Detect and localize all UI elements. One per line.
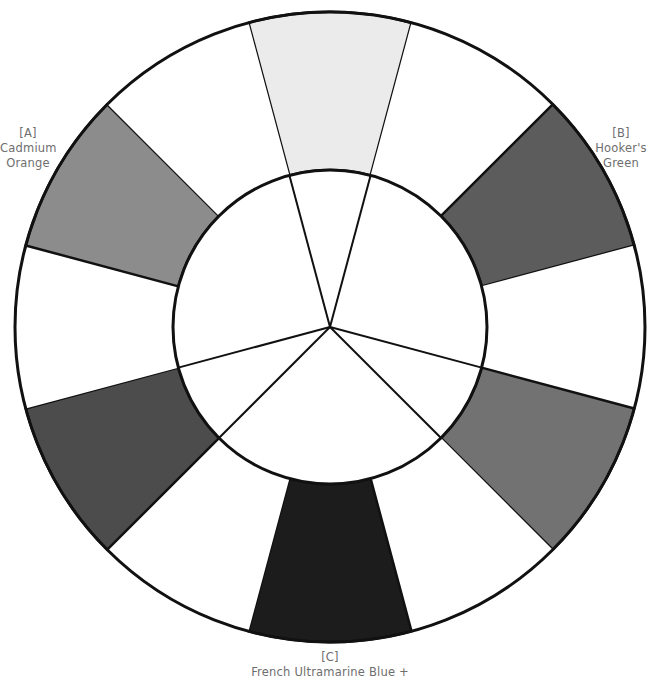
label-b-line1: Hooker's [592, 141, 650, 156]
label-a-tag: [A] [0, 126, 56, 141]
label-c-tag: [C] [200, 650, 460, 665]
label-hookers-green: [B] Hooker's Green [592, 126, 650, 171]
label-b-tag: [B] [592, 126, 650, 141]
label-a-line2: Orange [0, 156, 56, 171]
label-cadmium-orange: [A] Cadmium Orange [0, 126, 56, 171]
label-b-line2: Green [592, 156, 650, 171]
color-wheel [0, 0, 650, 682]
label-french-ultramarine: [C] French Ultramarine Blue + [200, 650, 460, 680]
label-a-line1: Cadmium [0, 141, 56, 156]
label-c-line1: French Ultramarine Blue + [200, 665, 460, 680]
